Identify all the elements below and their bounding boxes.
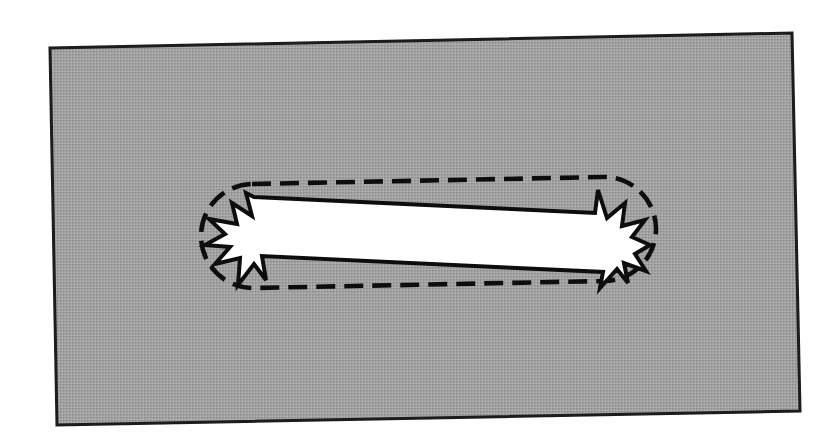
figure-canvas <box>0 0 833 443</box>
figure-root <box>0 0 833 443</box>
